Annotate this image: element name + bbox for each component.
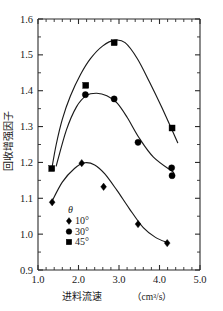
chart-figure: 0.91.01.11.21.31.41.51.6 1.02.03.04.05.0… <box>0 0 223 311</box>
y-tick-label: 1.5 <box>20 49 33 60</box>
data-point-circle <box>169 165 175 171</box>
x-tick-label: 4.0 <box>153 274 166 285</box>
x-tick-label: 5.0 <box>193 274 206 285</box>
legend-marker-circle <box>66 229 72 235</box>
data-point-circle <box>135 139 141 145</box>
x-tick-label: 3.0 <box>112 274 125 285</box>
y-tick-label: 1.6 <box>20 14 33 25</box>
y-tick-label: 1.4 <box>20 85 34 96</box>
data-point-square <box>169 125 175 131</box>
x-axis-title-unit: （cm³/s） <box>132 291 173 302</box>
legend-label: 10° <box>75 215 89 226</box>
legend-marker-square <box>66 239 72 245</box>
data-point-circle <box>111 96 117 102</box>
y-tick-label: 1.3 <box>20 121 33 132</box>
legend-label: 30° <box>75 226 89 237</box>
y-axis-title-holder: 回收增强因子 <box>0 88 18 198</box>
legend-title: θ <box>68 204 73 215</box>
y-tick-label: 1.2 <box>20 157 33 168</box>
x-tick-label: 2.0 <box>72 274 85 285</box>
data-point-square <box>49 166 55 172</box>
x-axis-title-main: 进料流速 <box>62 290 102 302</box>
chart-plot-area: 0.91.01.11.21.31.41.51.6 1.02.03.04.05.0… <box>0 0 223 311</box>
data-point-square <box>83 82 89 88</box>
legend-label: 45° <box>75 236 89 247</box>
x-tick-label: 1.0 <box>31 274 44 285</box>
y-tick-label: 1.1 <box>20 193 33 204</box>
y-tick-label: 1.0 <box>20 229 33 240</box>
data-point-circle <box>169 173 175 179</box>
chart-background <box>0 0 223 311</box>
y-axis-title: 回收增强因子 <box>3 86 15 196</box>
data-point-square <box>111 40 117 46</box>
data-point-circle <box>82 92 88 98</box>
